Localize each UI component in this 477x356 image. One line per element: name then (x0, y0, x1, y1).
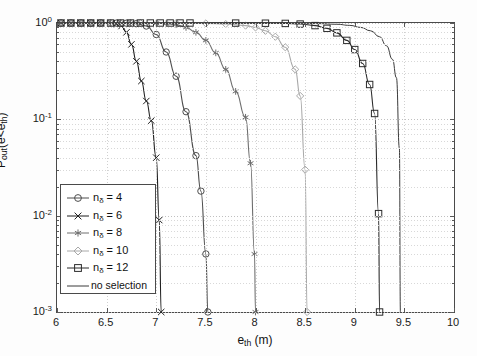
y-tick-label: 10-2 (33, 208, 52, 221)
x-axis-tick (305, 23, 306, 27)
y-axis-tick (57, 170, 59, 171)
legend-item[interactable]: nδ = 10 (61, 242, 157, 260)
grid-line-vertical (256, 23, 257, 312)
marker-x (138, 78, 144, 84)
y-axis-tick (452, 27, 454, 28)
y-tick-label: 10-3 (33, 304, 52, 317)
y-axis-tick (57, 27, 59, 28)
legend-label: nδ = 8 (93, 226, 122, 240)
legend-label: nδ = 12 (93, 261, 128, 275)
y-axis-tick (57, 38, 59, 39)
y-axis-tick (57, 32, 59, 33)
y-tick-label: 10-1 (33, 111, 52, 124)
x-axis-tick (454, 23, 455, 27)
legend-label: nδ = 6 (93, 209, 122, 223)
y-axis-tick (452, 237, 454, 238)
y-axis-tick (452, 129, 454, 130)
y-axis-tick (450, 119, 454, 120)
legend-marker-sample (65, 242, 91, 260)
y-axis-tick (452, 73, 454, 74)
x-tick-label: 7 (152, 316, 158, 328)
x-axis-tick (206, 308, 207, 312)
y-axis-tick (450, 312, 454, 313)
x-axis-tick (404, 308, 405, 312)
y-axis-tick (452, 148, 454, 149)
x-axis-tick (404, 23, 405, 27)
y-axis-tick (452, 44, 454, 45)
y-axis-tick (452, 52, 454, 53)
y-axis-tick (57, 266, 59, 267)
x-tick-label: 6 (53, 316, 59, 328)
y-axis-tick (57, 312, 61, 313)
x-axis-tick (57, 308, 58, 312)
y-axis-tick (452, 225, 454, 226)
figure-canvas: Pout(e<eth) eth (m) 66.577.588.599.510 1… (0, 0, 477, 356)
marker-x (143, 98, 149, 104)
y-axis-tick (452, 283, 454, 284)
x-tick-label: 8.5 (296, 316, 311, 328)
y-axis-tick (57, 245, 59, 246)
legend-item[interactable]: nδ = 4 (61, 189, 157, 207)
y-axis-tick (57, 90, 59, 91)
x-tick-label: 6.5 (98, 316, 113, 328)
y-axis-tick (452, 61, 454, 62)
x-axis-title: eth (m) (237, 333, 272, 348)
y-axis-tick (57, 73, 59, 74)
y-axis-tick (452, 158, 454, 159)
x-tick-label: 10 (447, 316, 459, 328)
legend-label: nδ = 10 (93, 244, 128, 258)
y-axis-tick (57, 225, 59, 226)
y-axis-tick (57, 61, 59, 62)
x-tick-label: 7.5 (197, 316, 212, 328)
x-tick-label: 9.5 (396, 316, 411, 328)
legend-item[interactable]: nδ = 6 (61, 207, 157, 225)
y-axis-tick (452, 187, 454, 188)
y-axis-tick (57, 237, 59, 238)
x-axis-tick (355, 23, 356, 27)
y-axis-tick (57, 283, 59, 284)
legend-marker-sample (65, 189, 91, 207)
y-axis-tick (452, 141, 454, 142)
y-axis-tick (452, 124, 454, 125)
grid-line-vertical (206, 23, 207, 312)
legend-marker-sample (65, 259, 91, 277)
y-axis-tick (57, 119, 61, 120)
x-tick-label: 9 (351, 316, 357, 328)
y-axis-tick (57, 220, 59, 221)
y-axis-tick (452, 38, 454, 39)
y-axis-tick (452, 32, 454, 33)
y-axis-tick (452, 220, 454, 221)
legend-item[interactable]: nδ = 12 (61, 259, 157, 277)
x-axis-tick (156, 308, 157, 312)
y-axis-tick (57, 231, 59, 232)
y-axis-tick (57, 124, 59, 125)
legend-item[interactable]: no selection (61, 277, 157, 295)
y-axis-tick (57, 44, 59, 45)
y-axis-tick (57, 187, 59, 188)
y-axis-tick (452, 231, 454, 232)
x-axis-tick (57, 23, 58, 27)
legend-marker-sample (65, 224, 91, 242)
y-axis-tick (57, 148, 59, 149)
y-axis-tick (57, 158, 59, 159)
y-axis-tick (452, 134, 454, 135)
legend-label: no selection (91, 279, 147, 291)
y-axis-tick (452, 254, 454, 255)
grid-line-vertical (404, 23, 405, 312)
x-axis-tick (305, 308, 306, 312)
x-axis-tick (256, 308, 257, 312)
x-axis-tick (107, 23, 108, 27)
grid-line-vertical (355, 23, 356, 312)
legend-box: nδ = 4nδ = 6nδ = 8nδ = 10nδ = 12no selec… (60, 184, 156, 294)
y-axis-tick (57, 141, 59, 142)
y-tick-label: 100 (35, 15, 52, 28)
x-axis-tick (107, 308, 108, 312)
x-tick-label: 8 (251, 316, 257, 328)
legend-marker-sample (65, 277, 91, 295)
y-axis-tick (57, 129, 59, 130)
y-axis-tick (450, 216, 454, 217)
marker-asterisk (248, 160, 254, 167)
legend-item[interactable]: nδ = 8 (61, 224, 157, 242)
y-axis-tick (452, 266, 454, 267)
x-axis-tick (256, 23, 257, 27)
